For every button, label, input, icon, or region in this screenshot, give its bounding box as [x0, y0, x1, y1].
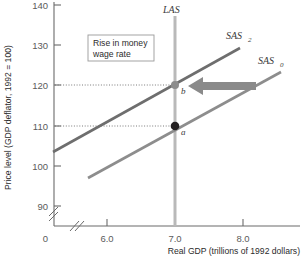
las-label: LAS: [162, 4, 180, 15]
point-b-label: b: [181, 86, 186, 96]
point-a-marker: [171, 122, 180, 131]
sas-shift-chart: 140 130 120 110 100 90 0 6.0 7.0 8.0 Pri…: [0, 0, 303, 258]
x-tick-6: 6.0: [100, 233, 113, 244]
las-label-group: LAS: [162, 4, 180, 15]
note-line-2: wage rate: [92, 49, 131, 59]
y-tick-130: 130: [32, 40, 48, 51]
y-axis-title: Price level (GDP deflator, 1992 = 100): [3, 45, 13, 190]
x-axis-title: Real GDP (trillions of 1992 dollars): [168, 246, 300, 256]
sas2-label-subscript: 2: [248, 36, 252, 44]
y-tick-100: 100: [32, 161, 48, 172]
x-tick-7: 7.0: [168, 233, 181, 244]
point-b-marker: [171, 81, 179, 89]
note-line-1: Rise in money: [93, 38, 148, 48]
y-tick-110: 110: [33, 121, 48, 132]
sas2-label: SAS: [226, 30, 242, 41]
chart-figure: 140 130 120 110 100 90 0 6.0 7.0 8.0 Pri…: [0, 0, 303, 258]
y-tick-90: 90: [37, 201, 48, 212]
y-tick-120: 120: [32, 80, 48, 91]
note-box: Rise in money wage rate: [88, 35, 154, 61]
x-tick-8: 8.0: [236, 233, 249, 244]
sas0-label-subscript: 0: [280, 61, 284, 69]
point-a-label: a: [181, 127, 186, 137]
y-tick-140: 140: [32, 0, 48, 11]
sas0-label: SAS: [258, 55, 274, 66]
x-tick-0: 0: [43, 233, 48, 244]
